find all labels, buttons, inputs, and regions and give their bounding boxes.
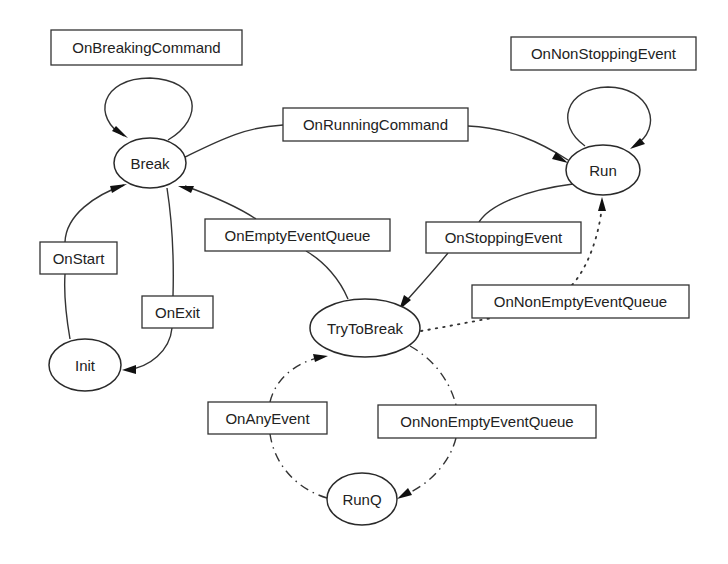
state-break-label: Break xyxy=(130,155,170,172)
arrowhead-icon xyxy=(110,184,127,193)
label-on-stopping-event[interactable]: OnStoppingEvent xyxy=(426,222,581,253)
svg-text:OnAnyEvent: OnAnyEvent xyxy=(225,410,310,427)
arrowhead-icon xyxy=(122,365,136,374)
state-break[interactable]: Break xyxy=(114,138,186,188)
svg-text:OnStoppingEvent: OnStoppingEvent xyxy=(445,229,563,246)
edge-break-to-init xyxy=(126,188,173,370)
svg-text:OnStart: OnStart xyxy=(53,250,106,267)
arrowhead-icon xyxy=(552,152,568,163)
state-init-label: Init xyxy=(75,357,96,374)
state-runq-label: RunQ xyxy=(342,491,381,508)
arrowhead-icon xyxy=(313,354,328,362)
state-diagram: Break Run Init TryToBreak RunQ OnBreakin… xyxy=(0,0,728,564)
arrowhead-icon xyxy=(397,488,412,499)
states: Break Run Init TryToBreak RunQ xyxy=(49,138,640,525)
svg-text:OnRunningCommand: OnRunningCommand xyxy=(303,116,448,133)
state-run-label: Run xyxy=(589,162,617,179)
label-on-non-stopping-event[interactable]: OnNonStoppingEvent xyxy=(511,37,696,70)
svg-text:OnEmptyEventQueue: OnEmptyEventQueue xyxy=(225,227,371,244)
svg-text:OnExit: OnExit xyxy=(155,304,201,321)
state-init[interactable]: Init xyxy=(49,339,121,391)
label-on-non-empty-event-queue-runq[interactable]: OnNonEmptyEventQueue xyxy=(378,405,596,438)
svg-text:OnNonEmptyEventQueue: OnNonEmptyEventQueue xyxy=(400,413,573,430)
svg-text:OnNonEmptyEventQueue: OnNonEmptyEventQueue xyxy=(494,293,667,310)
label-on-non-empty-event-queue-run[interactable]: OnNonEmptyEventQueue xyxy=(472,285,689,318)
arrowhead-icon xyxy=(178,186,194,193)
label-on-any-event[interactable]: OnAnyEvent xyxy=(208,402,327,434)
transition-labels: OnBreakingCommand OnNonStoppingEvent OnR… xyxy=(40,30,696,438)
state-run[interactable]: Run xyxy=(566,145,640,195)
state-runq[interactable]: RunQ xyxy=(327,473,397,525)
state-trytobreak-label: TryToBreak xyxy=(327,320,404,337)
svg-text:OnNonStoppingEvent: OnNonStoppingEvent xyxy=(531,45,677,62)
label-on-start[interactable]: OnStart xyxy=(40,242,117,274)
svg-text:OnBreakingCommand: OnBreakingCommand xyxy=(72,39,220,56)
label-on-running-command[interactable]: OnRunningCommand xyxy=(283,108,468,141)
arrowhead-icon xyxy=(112,126,128,138)
state-trytobreak[interactable]: TryToBreak xyxy=(310,299,420,357)
edge-run-self-loop xyxy=(568,87,651,146)
label-on-exit[interactable]: OnExit xyxy=(142,296,213,328)
label-on-empty-event-queue[interactable]: OnEmptyEventQueue xyxy=(205,219,390,251)
label-on-breaking-command[interactable]: OnBreakingCommand xyxy=(51,30,242,65)
arrowhead-icon xyxy=(598,197,606,211)
